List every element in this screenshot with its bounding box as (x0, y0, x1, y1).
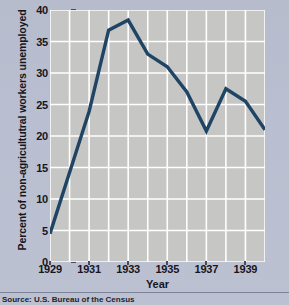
y-tick-label: 40 (36, 5, 48, 16)
x-tick-mark (49, 261, 51, 265)
unemployment-line (50, 20, 265, 234)
unemployment-line-chart-figure: Percent of non-agricultutral workers une… (0, 0, 289, 305)
x-axis-title: Year (50, 278, 265, 290)
figure-caption: Source: U.S. Bureau of the Census (2, 295, 289, 305)
x-tick-mark (127, 261, 129, 265)
x-tick-mark (205, 261, 207, 265)
x-tick-label: 1933 (116, 264, 140, 275)
chart-block: Percent of non-agricultutral workers une… (0, 0, 289, 288)
x-tick-label: 1939 (234, 264, 258, 275)
y-tick-label: 25 (36, 99, 48, 110)
x-tick-mark (88, 261, 90, 265)
y-tick-label: 20 (36, 131, 48, 142)
x-tick-mark (244, 261, 246, 265)
x-tick-mark (166, 261, 168, 265)
y-tick-label: 10 (36, 194, 48, 205)
y-tick-label: 5 (42, 225, 48, 236)
x-tick-label: 1935 (155, 264, 179, 275)
plot-area (50, 10, 265, 262)
x-tick-label: 1929 (38, 264, 62, 275)
data-line-series (50, 10, 265, 262)
y-tick-label: 15 (36, 162, 48, 173)
x-tick-label: 1937 (195, 264, 219, 275)
y-tick-label: 30 (36, 68, 48, 79)
caption-divider (0, 292, 289, 293)
y-tick-label: 35 (36, 36, 48, 47)
x-tick-label: 1931 (77, 264, 101, 275)
y-axis-tick-labels: 0510152025303540 (26, 10, 48, 262)
